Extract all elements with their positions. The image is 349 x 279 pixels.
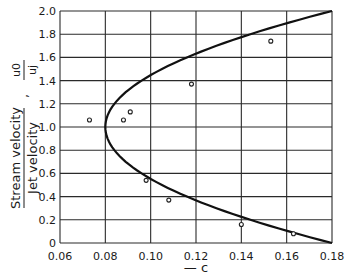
chart: 00.20.40.60.81.01.21.41.61.82.0 0.060.08…	[0, 0, 349, 279]
y-label-symbol-numerator: u0	[10, 63, 23, 77]
grid	[60, 11, 332, 243]
x-tick-label: 0.14	[229, 250, 254, 263]
data-point	[167, 198, 171, 202]
y-axis-label: Stream velocity Jet velocity , u0 uj	[8, 60, 40, 209]
y-tick-label: 1.0	[39, 121, 57, 134]
x-tick-label: 0.06	[48, 250, 73, 263]
x-axis-label: — c	[184, 260, 208, 275]
x-tick-label: 0.10	[138, 250, 163, 263]
data-point	[239, 222, 243, 226]
y-label-denominator: Jet velocity	[25, 122, 40, 195]
data-point	[189, 82, 193, 86]
y-label-symbol-denominator: uj	[26, 65, 39, 75]
x-tick-label: 0.16	[274, 250, 299, 263]
y-tick-label: 0.8	[39, 144, 57, 157]
y-tick-label: 1.6	[39, 51, 57, 64]
x-tick-label: 0.18	[320, 250, 345, 263]
data-point	[128, 110, 132, 114]
data-point	[291, 232, 295, 236]
y-tick-label: 0	[49, 237, 56, 250]
data-point	[269, 39, 273, 43]
y-tick-label: 2.0	[39, 5, 57, 18]
x-tick-label: 0.08	[93, 250, 118, 263]
y-tick-label: 0.4	[39, 191, 57, 204]
data-point	[144, 178, 148, 182]
data-point	[87, 118, 91, 122]
y-tick-label: 0.2	[39, 214, 57, 227]
y-axis-ticks: 00.20.40.60.81.01.21.41.61.82.0	[39, 5, 57, 250]
y-tick-label: 1.8	[39, 28, 57, 41]
data-points	[87, 39, 295, 236]
data-point	[121, 118, 125, 122]
y-tick-label: 0.6	[39, 167, 57, 180]
y-label-numerator: Stream velocity	[8, 107, 23, 209]
y-label-separator: ,	[16, 94, 31, 98]
y-tick-label: 1.4	[39, 75, 57, 88]
y-tick-label: 1.2	[39, 98, 57, 111]
